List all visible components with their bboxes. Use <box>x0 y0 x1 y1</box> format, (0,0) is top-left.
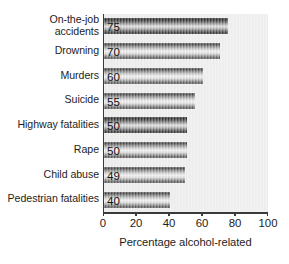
bar-value-label: 50 <box>107 118 120 133</box>
y-axis-label-5: Highway fatalities <box>0 119 99 130</box>
x-tick-80 <box>234 212 235 216</box>
x-tick-100 <box>267 212 268 216</box>
bar-fill <box>104 18 228 34</box>
y-axis-label-1: On-the-job accidents <box>0 14 99 37</box>
y-axis-label-7: Child abuse <box>0 169 99 180</box>
bar-value-label: 75 <box>107 19 120 34</box>
x-axis-title: Percentage alcohol-related <box>103 236 268 248</box>
bar-2 <box>104 43 220 59</box>
y-axis-category-labels: On-the-job accidentsDrowningMurdersSuici… <box>0 14 101 212</box>
y-axis-label-4: Suicide <box>0 94 99 105</box>
bar-1 <box>104 18 228 34</box>
y-axis-label-2: Drowning <box>0 45 99 56</box>
bar-fill <box>104 43 220 59</box>
x-tick-20 <box>135 212 136 216</box>
x-tick-60 <box>201 212 202 216</box>
chart-title <box>38 0 258 3</box>
x-tick-40 <box>168 212 169 216</box>
bar-value-label: 60 <box>107 69 120 84</box>
bar-value-label: 49 <box>107 168 120 183</box>
plot-area: 7570605550504940 <box>103 14 268 212</box>
y-axis-label-8: Pedestrian fatalities <box>0 193 99 204</box>
x-axis-line <box>103 212 268 214</box>
x-tick-0 <box>103 212 104 216</box>
bar-value-label: 40 <box>107 193 120 208</box>
y-axis-label-3: Murders <box>0 70 99 81</box>
bar-value-label: 70 <box>107 44 120 59</box>
bar-value-label: 50 <box>107 143 120 158</box>
chart-figure: On-the-job accidentsDrowningMurdersSuici… <box>0 0 289 264</box>
bar-value-label: 55 <box>107 94 120 109</box>
y-axis-label-6: Rape <box>0 144 99 155</box>
x-tick-label-100: 100 <box>248 217 288 229</box>
